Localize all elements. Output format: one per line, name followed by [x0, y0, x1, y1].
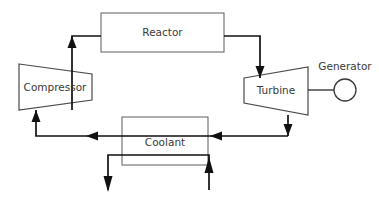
turbine-label: Turbine: [256, 84, 296, 96]
arrow-left-return-right: [210, 132, 222, 141]
arrow-up-into-compressor: [32, 110, 41, 122]
diagram-canvas: Reactor Compressor Turbine Generator Coo…: [0, 0, 379, 198]
arrow-up-into-reactor: [68, 36, 77, 48]
compressor-label: Compressor: [24, 81, 88, 93]
arrow-down-coolant-outlet: [104, 176, 113, 192]
process-flow-diagram: Reactor Compressor Turbine Generator Coo…: [0, 0, 379, 198]
pipe-reactor-to-turbine: [224, 36, 260, 78]
coolant-label: Coolant: [145, 136, 185, 148]
generator-label: Generator: [318, 60, 372, 72]
arrow-down-turbine-exhaust: [284, 124, 293, 136]
arrow-left-return-left: [86, 132, 98, 141]
generator-circle[interactable]: [334, 79, 356, 101]
reactor-label: Reactor: [142, 26, 183, 38]
